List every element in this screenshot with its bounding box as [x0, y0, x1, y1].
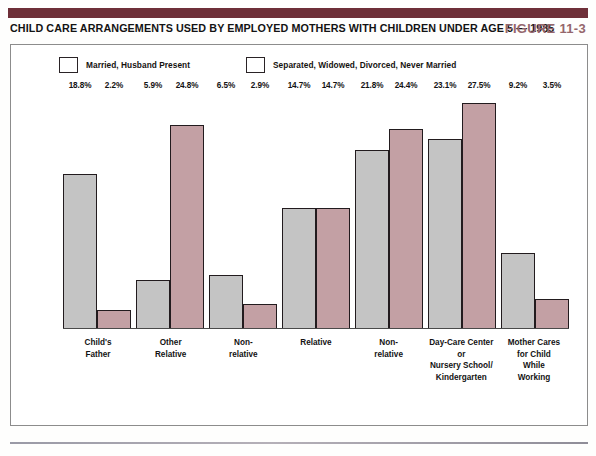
x-axis-label-line: Non- — [354, 337, 424, 349]
bar-value-label: 3.5% — [543, 81, 561, 90]
x-axis-label: Non-relative — [354, 337, 424, 360]
bar-wrap: 14.7% — [282, 91, 316, 328]
x-axis-label-line: for Child — [499, 349, 569, 361]
figure-title: CHILD CARE ARRANGEMENTS USED BY EMPLOYED… — [10, 22, 554, 34]
bar-value-label: 5.9% — [144, 81, 162, 90]
bar[interactable]: 5.9% — [136, 280, 170, 328]
x-axis-label-line: Working — [499, 372, 569, 384]
x-axis-label-line: Non- — [208, 337, 278, 349]
bar-value-label: 21.8% — [361, 81, 384, 90]
bar[interactable]: 21.8% — [355, 150, 389, 328]
bar-wrap: 3.5% — [535, 91, 569, 328]
bar-group: 23.1%27.5% — [428, 91, 496, 328]
bar-group: 21.8%24.4% — [355, 91, 423, 328]
bar-wrap: 18.8% — [63, 91, 97, 328]
x-axis-labels: Child'sFatherOtherRelativeNon-relativeRe… — [63, 331, 569, 417]
bar[interactable]: 18.8% — [63, 174, 97, 328]
x-axis-label: Mother Caresfor ChildWhileWorking — [499, 337, 569, 383]
x-axis-label: Child'sFather — [63, 337, 133, 360]
x-axis-label-line: Relative — [281, 337, 351, 349]
chart-plate: Married, Husband Present Separated, Wido… — [10, 44, 588, 426]
bar-wrap: 27.5% — [462, 91, 496, 328]
bottom-rule — [10, 442, 588, 444]
bar[interactable]: 24.8% — [170, 125, 204, 328]
x-axis-label-line: While — [499, 360, 569, 372]
x-axis-label-line: Father — [63, 349, 133, 361]
x-axis-label-line: Day-Care Center — [426, 337, 496, 349]
bar[interactable]: 2.9% — [243, 304, 277, 328]
legend-label-married: Married, Husband Present — [86, 60, 190, 70]
x-axis-label: Day-Care CenterorNursery School/Kinderga… — [426, 337, 496, 383]
bar-group: 6.5%2.9% — [209, 91, 277, 328]
bar[interactable]: 24.4% — [389, 129, 423, 328]
bar-wrap: 23.1% — [428, 91, 462, 328]
legend-label-separated: Separated, Widowed, Divorced, Never Marr… — [273, 60, 456, 70]
x-axis-label: OtherRelative — [136, 337, 206, 360]
bar-group: 9.2%3.5% — [501, 91, 569, 328]
bar[interactable]: 6.5% — [209, 275, 243, 328]
bar[interactable]: 3.5% — [535, 299, 569, 328]
bar-value-label: 18.8% — [69, 81, 92, 90]
x-axis-label: Relative — [281, 337, 351, 349]
x-axis-label-line: relative — [208, 349, 278, 361]
bar-value-label: 2.9% — [251, 81, 269, 90]
x-axis-label-line: Child's — [63, 337, 133, 349]
bar-wrap: 6.5% — [209, 91, 243, 328]
bar-value-label: 2.2% — [105, 81, 123, 90]
bar[interactable]: 9.2% — [501, 253, 535, 328]
x-axis-label-line: Mother Cares — [499, 337, 569, 349]
legend-item-married: Married, Husband Present — [59, 57, 190, 73]
bar[interactable]: 14.7% — [282, 208, 316, 328]
bar[interactable]: 2.2% — [97, 310, 131, 328]
bar-value-label: 6.5% — [217, 81, 235, 90]
bar[interactable]: 14.7% — [316, 208, 350, 328]
married-swatch-icon — [59, 57, 78, 73]
x-axis-label-line: or — [426, 349, 496, 361]
x-axis-label-line: Kindergarten — [426, 372, 496, 384]
bar-value-label: 14.7% — [288, 81, 311, 90]
title-row: CHILD CARE ARRANGEMENTS USED BY EMPLOYED… — [10, 22, 588, 40]
bar-wrap: 24.4% — [389, 91, 423, 328]
figure-number: FIGURE 11-3 — [505, 21, 586, 36]
bar-value-label: 27.5% — [468, 81, 491, 90]
bar-wrap: 2.9% — [243, 91, 277, 328]
bar-wrap: 14.7% — [316, 91, 350, 328]
x-axis-label-line: Relative — [136, 349, 206, 361]
bar-group: 18.8%2.2% — [63, 91, 131, 328]
bar-groups: 18.8%2.2%5.9%24.8%6.5%2.9%14.7%14.7%21.8… — [63, 91, 569, 328]
bar-value-label: 14.7% — [322, 81, 345, 90]
x-axis-label: Non-relative — [208, 337, 278, 360]
bar-value-label: 23.1% — [434, 81, 457, 90]
x-axis-baseline — [63, 328, 569, 329]
chart-legend: Married, Husband Present Separated, Wido… — [59, 57, 456, 73]
bar-wrap: 5.9% — [136, 91, 170, 328]
bar-wrap: 9.2% — [501, 91, 535, 328]
bar[interactable]: 27.5% — [462, 103, 496, 328]
x-axis-label-line: Other — [136, 337, 206, 349]
figure-root: CHILD CARE ARRANGEMENTS USED BY EMPLOYED… — [0, 0, 596, 456]
x-axis-label-line: relative — [354, 349, 424, 361]
bar-wrap: 21.8% — [355, 91, 389, 328]
plot-area: 18.8%2.2%5.9%24.8%6.5%2.9%14.7%14.7%21.8… — [55, 91, 573, 329]
bar-value-label: 24.4% — [395, 81, 418, 90]
bar-group: 14.7%14.7% — [282, 91, 350, 328]
legend-item-separated: Separated, Widowed, Divorced, Never Marr… — [246, 57, 456, 73]
top-banner — [8, 8, 588, 18]
x-axis-label-line: Nursery School/ — [426, 360, 496, 372]
bar-group: 5.9%24.8% — [136, 91, 204, 328]
bar-value-label: 9.2% — [509, 81, 527, 90]
bar-wrap: 24.8% — [170, 91, 204, 328]
bar-wrap: 2.2% — [97, 91, 131, 328]
bar[interactable]: 23.1% — [428, 139, 462, 328]
separated-swatch-icon — [246, 57, 265, 73]
bar-value-label: 24.8% — [176, 81, 199, 90]
